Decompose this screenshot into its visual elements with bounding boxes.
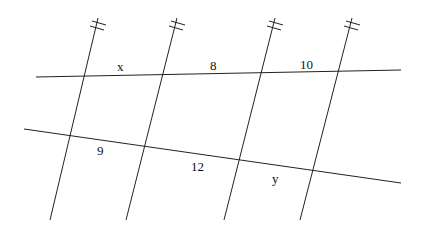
parallel-line-3 [224, 18, 275, 220]
label-10: 10 [300, 57, 313, 72]
label-x: x [117, 59, 124, 74]
parallel-line-1 [50, 18, 98, 220]
label-12: 12 [191, 159, 204, 174]
parallel-lines-diagram: x 8 10 9 12 y [0, 0, 421, 236]
parallel-line-2 [126, 18, 177, 220]
parallel-mark-icon [267, 21, 283, 30]
parallel-line-4 [300, 18, 352, 220]
parallel-mark-icon [344, 21, 360, 30]
transversal-bottom [24, 129, 401, 183]
parallel-mark-icon [169, 21, 185, 30]
parallel-mark-icon [90, 21, 106, 30]
label-8: 8 [210, 58, 217, 73]
label-9: 9 [97, 143, 104, 158]
label-y: y [272, 171, 279, 186]
transversal-top [36, 70, 401, 77]
